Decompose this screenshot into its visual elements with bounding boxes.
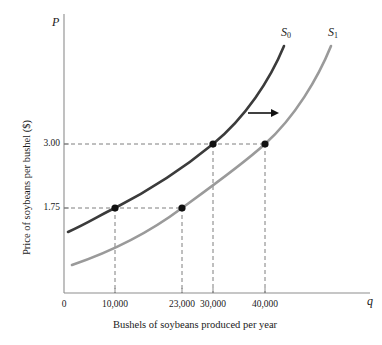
curve-label-s0-subscript: 0	[287, 31, 291, 40]
x-axis-variable-label: q	[367, 295, 373, 307]
y-axis-title: Price of soybeans per bushel ($)	[22, 120, 33, 255]
rightward-shift-arrow-icon	[248, 109, 279, 117]
supply-curve-figure: P q S0 S1 3.00 1.75 0 10,000 23,000 30,0…	[0, 0, 382, 345]
supply-curve-s1	[72, 46, 331, 265]
curve-label-s0: S0	[281, 26, 291, 40]
x-axis-title: Bushels of soybeans produced per year	[113, 320, 277, 331]
y-tick-label-1-75: 1.75	[33, 203, 60, 213]
y-axis-ticks	[64, 144, 69, 208]
curve-label-s1: S1	[328, 26, 338, 40]
x-tick-label-origin: 0	[62, 300, 67, 310]
marker-23000-1-75	[178, 204, 185, 211]
y-axis-variable-label: P	[52, 16, 59, 28]
x-tick-label-23000: 23,000	[169, 300, 195, 310]
y-tick-label-3-00: 3.00	[33, 139, 60, 149]
x-tick-label-40000: 40,000	[252, 300, 278, 310]
chart-canvas	[0, 0, 382, 345]
x-tick-label-10000: 10,000	[102, 300, 128, 310]
supply-curve-s0	[68, 46, 284, 232]
marker-10000-1-75	[111, 204, 118, 211]
marker-30000-3-00	[209, 140, 216, 147]
x-axis-ticks	[115, 288, 265, 293]
marker-40000-3-00	[261, 140, 268, 147]
curve-label-s1-subscript: 1	[334, 31, 338, 40]
x-tick-label-30000: 30,000	[200, 300, 226, 310]
